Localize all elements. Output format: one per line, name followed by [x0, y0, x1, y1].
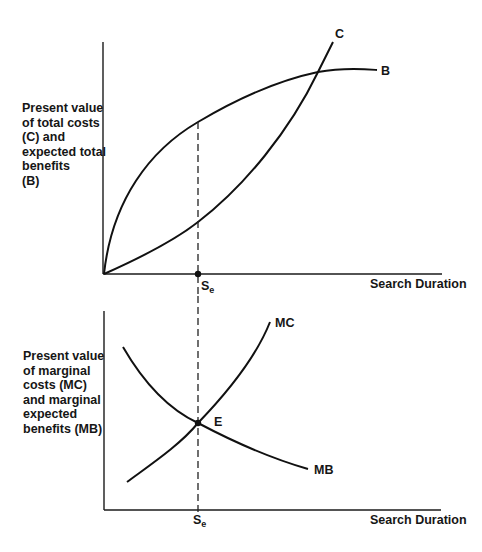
top-y-label-line: Present value — [22, 101, 106, 116]
top-panel: C B Se Search Duration — [103, 27, 467, 296]
curve-MB-label: MB — [314, 463, 333, 477]
bottom-y-label-line: benefits (MB) — [23, 422, 104, 437]
bottom-y-axis-label: Present value of marginal costs (MC) and… — [23, 349, 104, 437]
top-y-label-line: of total costs — [22, 116, 106, 131]
top-y-axis-label: Present value of total costs (C) and exp… — [22, 101, 106, 189]
bottom-y-label-line: of marginal — [23, 364, 104, 379]
bottom-panel: MC MB E Se Search Duration — [104, 296, 467, 529]
top-y-label-line: benefits — [22, 159, 106, 174]
search-duration-diagram: C B Se Search Duration MC MB E Se Search… — [0, 0, 482, 552]
bottom-y-label-line: and marginal — [23, 393, 104, 408]
curve-B-label: B — [381, 64, 390, 78]
equilibrium-label: E — [214, 415, 222, 429]
curve-MB — [123, 347, 308, 469]
curve-MC-label: MC — [275, 316, 294, 330]
bottom-y-label-line: Present value — [23, 349, 104, 364]
top-se-label: Se — [201, 279, 214, 295]
top-y-label-line: expected total — [22, 145, 106, 160]
curve-C-label: C — [335, 27, 344, 41]
top-se-point — [195, 271, 201, 277]
bottom-y-label-line: expected — [23, 407, 104, 422]
top-y-label-line: (B) — [22, 174, 106, 189]
bottom-y-label-line: costs (MC) — [23, 378, 104, 393]
bottom-x-axis-label: Search Duration — [370, 513, 467, 527]
top-y-label-line: (C) and — [22, 130, 106, 145]
top-x-axis-label: Search Duration — [370, 277, 467, 291]
curve-B — [104, 69, 377, 274]
equilibrium-point — [195, 420, 201, 426]
bottom-se-label: Se — [193, 513, 206, 529]
